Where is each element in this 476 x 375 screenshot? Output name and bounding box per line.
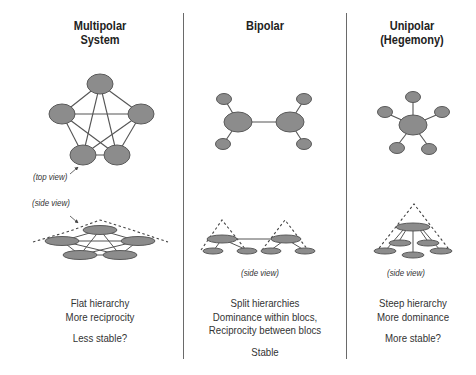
bloc-leader	[224, 112, 252, 132]
unipolar-side-view	[374, 204, 452, 258]
unipolar-description: Steep hierarchy More dominance More stab…	[360, 297, 466, 346]
description-line: More dominance	[360, 311, 466, 325]
node	[70, 145, 96, 165]
node	[297, 139, 312, 150]
unipolar-top-view	[378, 92, 450, 155]
description-line: Steep hierarchy	[360, 297, 466, 311]
description-line: More reciprocity	[47, 311, 153, 325]
bipolar-side-view-label: (side view)	[241, 268, 279, 278]
side-view-arrow	[70, 216, 77, 222]
unipolar-side-view-label: (side view)	[387, 268, 425, 278]
description-line: Dominance within blocs,	[199, 311, 331, 325]
bipolar-top-view	[216, 94, 312, 150]
node	[87, 74, 113, 94]
node	[217, 94, 232, 105]
node	[435, 107, 450, 118]
description-line: Split hierarchies	[199, 297, 331, 311]
bloc-leader	[276, 112, 304, 132]
stability-label: Less stable?	[47, 332, 153, 346]
bipolar-description: Split hierarchies Dominance within blocs…	[199, 297, 331, 359]
multipolar-top-view	[62, 84, 141, 155]
multipolar-top-nodes	[49, 74, 154, 165]
multipolar-top-view-label: (top view)	[33, 172, 67, 182]
description-line: Reciprocity between blocs	[199, 324, 331, 338]
multipolar-side-view-label: (side view)	[32, 198, 70, 208]
node	[49, 104, 75, 124]
node	[104, 145, 130, 165]
node	[406, 92, 421, 103]
stability-label: Stable	[199, 346, 331, 360]
description-line: Flat hierarchy	[47, 297, 153, 311]
node	[378, 107, 393, 118]
stability-label: More stable?	[360, 332, 466, 346]
node	[422, 144, 437, 155]
node	[216, 139, 231, 150]
node	[128, 104, 154, 124]
bipolar-side-view	[201, 220, 315, 254]
multipolar-description: Flat hierarchy More reciprocity Less sta…	[47, 297, 153, 346]
node	[390, 143, 405, 154]
multipolar-side-view	[33, 220, 168, 260]
top-view-arrow	[70, 168, 77, 174]
hegemon	[399, 115, 427, 135]
node	[297, 94, 312, 105]
